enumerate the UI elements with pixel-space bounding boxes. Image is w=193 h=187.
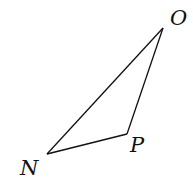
vertex-label-n: N xyxy=(19,156,39,180)
edge-NO xyxy=(47,28,163,154)
vertex-label-p: P xyxy=(129,133,145,157)
vertex-label-o: O xyxy=(170,6,187,30)
edge-PN xyxy=(47,134,127,154)
diagram-svg: O P N xyxy=(0,0,193,187)
triangle-diagram: O P N xyxy=(0,0,193,187)
edge-OP xyxy=(127,28,163,134)
